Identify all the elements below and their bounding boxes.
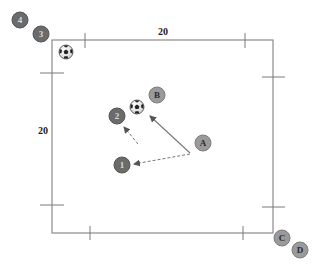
player-label: B: [154, 90, 160, 100]
player-2: 2: [109, 108, 125, 124]
player-label: 3: [39, 29, 44, 39]
field-ticks: [40, 33, 285, 240]
player-4: 4: [12, 12, 28, 28]
field-height-label: 20: [38, 125, 48, 136]
players: 4 3 2 1 B A C D: [12, 12, 308, 258]
player-3: 3: [33, 26, 49, 42]
player-label: A: [200, 138, 207, 148]
pass-arrow-to-2: [124, 127, 138, 144]
player-c: C: [274, 230, 290, 246]
player-d: D: [292, 242, 308, 258]
drill-diagram: 20 20 4 3 2: [0, 0, 325, 268]
player-b: B: [149, 87, 165, 103]
field-boundary: [52, 40, 273, 233]
player-label: 4: [18, 15, 23, 25]
ball-center: [130, 100, 144, 114]
player-label: C: [279, 233, 286, 243]
player-1: 1: [114, 157, 130, 173]
run-arrow-a-to-b: [150, 116, 190, 153]
pass-arrow-a-to-1: [134, 154, 190, 164]
ball-corner: [59, 45, 73, 59]
player-label: D: [297, 245, 304, 255]
movement-arrows: [124, 116, 190, 164]
player-a: A: [195, 135, 211, 151]
field-width-label: 20: [158, 26, 168, 37]
player-label: 2: [115, 111, 120, 121]
player-label: 1: [120, 160, 125, 170]
